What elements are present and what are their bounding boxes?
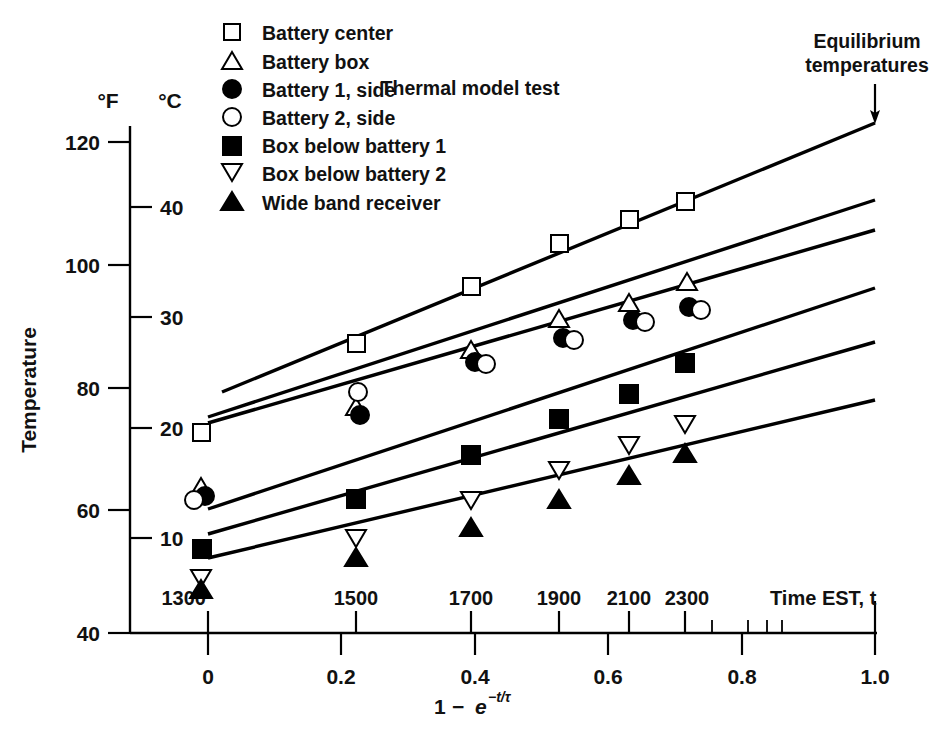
equilibrium-annotation-line1: Equilibrium [813, 30, 920, 52]
legend-item-battery-1-side: Battery 1, side [223, 79, 395, 101]
marker-filled-triangle-up [548, 490, 570, 508]
legend-item-battery-2-side: Battery 2, side [223, 107, 395, 129]
marker-open-triangle-down [461, 492, 481, 509]
chart-title: Thermal model test [381, 77, 560, 99]
marker-filled-square [550, 410, 568, 428]
y-tick-label-f-120: 120 [65, 131, 100, 154]
down-arrow-icon [870, 84, 880, 124]
y-axis-title-text: Temperature [17, 327, 40, 453]
x-axis-ticks-bottom: 0 0.2 0.4 0.6 0.8 1.0 [202, 633, 889, 688]
legend-item-battery-center: Battery center [224, 22, 394, 44]
y-tick-label-c-20: 20 [160, 417, 183, 440]
y-axis-unit-fahrenheit: °F [97, 89, 118, 112]
marker-open-square [348, 335, 365, 352]
series-markers-box-below-battery-1 [193, 354, 694, 558]
legend-marker-filled-square-icon [223, 137, 241, 155]
x-tick-label-1-0: 1.0 [860, 665, 889, 688]
fit-line-battery-box [208, 200, 875, 417]
legend-label: Box below battery 1 [262, 135, 446, 157]
legend: Battery center Battery box Battery 1, si… [221, 22, 446, 214]
y-tick-label-f-80: 80 [77, 377, 100, 400]
x-axis-title-one: 1 [434, 695, 446, 718]
x-tick-label-time-1700: 1700 [449, 587, 494, 609]
marker-open-circle [565, 331, 583, 349]
marker-open-square [677, 193, 694, 210]
x-tick-label-0-4: 0.4 [460, 665, 490, 688]
y-axis-ticks-celsius: 40 30 20 10 [130, 196, 183, 550]
marker-open-triangle-down [619, 437, 639, 454]
marker-open-square [463, 278, 480, 295]
marker-filled-square [193, 540, 211, 558]
marker-open-triangle-down [346, 530, 366, 547]
x-axis-top-title: Time EST, t [770, 587, 877, 609]
marker-filled-square [676, 354, 694, 372]
data-fit-lines [208, 123, 875, 558]
thermal-model-test-figure: Temperature °F °C 120 100 80 60 40 40 [0, 0, 932, 741]
y-axis-unit-celsius: °C [158, 89, 182, 112]
equilibrium-annotation: Equilibrium temperatures [805, 30, 929, 124]
y-axis-title: Temperature [17, 327, 40, 453]
y-tick-label-f-60: 60 [77, 499, 100, 522]
x-tick-label-time-1900: 1900 [537, 587, 582, 609]
legend-label: Battery 2, side [262, 107, 395, 129]
marker-open-triangle-down [675, 416, 695, 433]
legend-label: Box below battery 2 [262, 163, 446, 185]
legend-item-box-below-battery-1: Box below battery 1 [223, 135, 446, 157]
y-tick-label-c-10: 10 [160, 527, 183, 550]
legend-item-box-below-battery-2: Box below battery 2 [222, 163, 446, 185]
legend-marker-filled-circle-icon [223, 80, 241, 98]
marker-open-square [551, 235, 568, 252]
marker-filled-triangle-up [618, 466, 640, 484]
y-tick-label-f-40: 40 [77, 622, 100, 645]
y-tick-label-c-40: 40 [160, 196, 183, 219]
legend-label: Battery box [262, 51, 369, 73]
x-tick-label-0: 0 [202, 665, 214, 688]
fit-line-wide-band-receiver [208, 400, 875, 558]
x-tick-label-0-2: 0.2 [326, 665, 355, 688]
marker-filled-circle [351, 406, 369, 424]
legend-item-wide-band-receiver: Wide band receiver [221, 192, 441, 214]
x-tick-label-0-8: 0.8 [727, 665, 757, 688]
legend-marker-open-circle-icon [223, 108, 241, 126]
legend-item-battery-box: Battery box [222, 51, 369, 73]
marker-open-square [621, 211, 638, 228]
marker-filled-square [347, 490, 365, 508]
marker-open-square [193, 424, 210, 441]
marker-open-circle [185, 491, 203, 509]
marker-filled-triangle-up [460, 518, 482, 536]
marker-open-circle [349, 383, 367, 401]
legend-label: Battery center [262, 22, 394, 44]
y-axis-ticks-fahrenheit: 120 100 80 60 40 [65, 131, 130, 645]
legend-marker-open-square-icon [224, 24, 240, 40]
x-axis-ticks-time-est: 1300 1500 1700 1900 2100 2300 Time EST, … [162, 587, 877, 633]
x-axis-title-exponent: −t/τ [488, 689, 512, 705]
legend-label: Wide band receiver [262, 192, 441, 214]
fit-line-box-below-battery-2 [208, 342, 875, 534]
x-tick-label-time-2100: 2100 [607, 587, 652, 609]
y-tick-label-c-30: 30 [160, 306, 183, 329]
legend-label: Battery 1, side [262, 79, 395, 101]
x-axis-title-minus: − [452, 695, 464, 718]
legend-marker-filled-triangle-up-icon [221, 192, 243, 210]
x-tick-label-time-1500: 1500 [334, 587, 379, 609]
legend-marker-open-triangle-up-icon [222, 52, 242, 69]
x-axis-title-e: e [475, 695, 487, 718]
y-tick-label-f-100: 100 [65, 254, 100, 277]
equilibrium-annotation-line2: temperatures [805, 54, 929, 76]
legend-marker-open-triangle-down-icon [222, 164, 242, 181]
chart-svg: Temperature °F °C 120 100 80 60 40 40 [0, 0, 932, 741]
marker-filled-square [620, 385, 638, 403]
marker-filled-square [462, 446, 480, 464]
fit-line-box-below-battery-1 [208, 288, 875, 509]
marker-open-circle [477, 355, 495, 373]
x-tick-label-time-2300: 2300 [665, 587, 710, 609]
marker-filled-triangle-up [345, 548, 367, 566]
marker-open-circle [692, 301, 710, 319]
x-axis-title: 1 − e −t/τ [434, 689, 512, 718]
marker-open-circle [636, 313, 654, 331]
x-tick-label-0-6: 0.6 [593, 665, 622, 688]
